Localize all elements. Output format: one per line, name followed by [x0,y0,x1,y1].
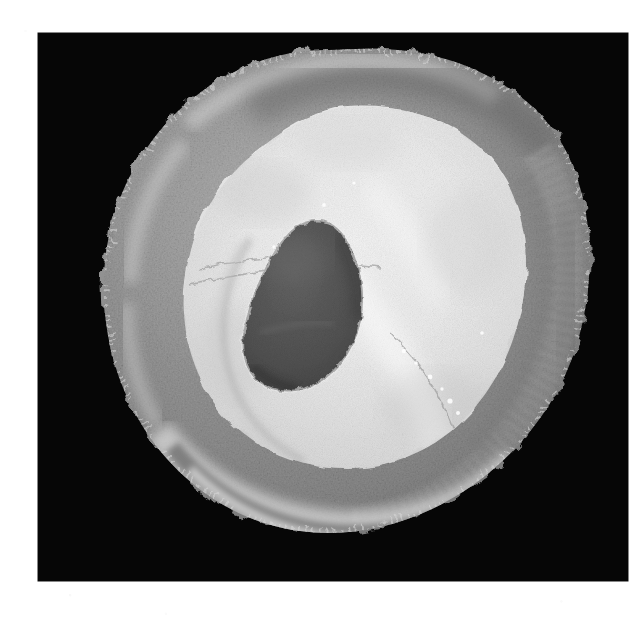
specimen-stage [38,33,628,581]
page-margin-right [628,0,638,620]
page-margin-left [0,0,38,620]
page-margin-top [0,0,638,33]
page-margin-bottom [0,581,638,620]
photographic-plate [38,33,628,581]
scanned-page [0,0,638,620]
specimen-cross-section-image [38,33,628,581]
